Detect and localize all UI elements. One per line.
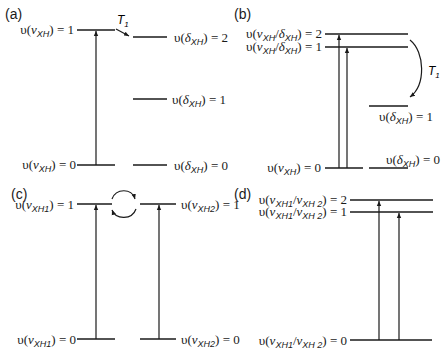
level-label-c-xh1-0: υ(νXH1) = 0: [17, 332, 76, 349]
panel-a: (a) υ(νXH) = 1 υ(νXH) = 0 υ(δXH) = 2 υ(δ…: [5, 6, 228, 175]
level-label-c-xh2-0: υ(νXH2) = 0: [181, 332, 240, 349]
panel-c: (c) υ(νXH1) = 1 υ(νXH2) = 1 υ(νXH1) = 0 …: [11, 186, 240, 349]
level-label-a-stretch-0: υ(νXH) = 0: [22, 157, 76, 174]
level-label-b-stretch-0: υ(νXH) = 0: [267, 160, 321, 177]
level-label-b-bend-1: υ(δXH) = 1: [379, 109, 433, 126]
relaxation-curved-arrow-icon: [410, 40, 422, 97]
level-label-c-xh1-1: υ(νXH1) = 1: [15, 197, 74, 214]
level-label-a-stretch-1: υ(νXH) = 1: [20, 22, 74, 39]
level-label-a-bend-1: υ(δXH) = 1: [172, 92, 226, 109]
panel-d: (d) υ(νXH1/νXH 2) = 2 υ(νXH1/νXH 2) = 1 …: [234, 186, 433, 350]
relaxation-label-b: T1: [428, 64, 440, 80]
exchange-arrow-icon: [112, 209, 136, 217]
level-label-d-mixed-0: υ(νXH1/νXH 2) = 0: [259, 333, 347, 350]
level-label-a-bend-0: υ(δXH) = 0: [174, 158, 228, 175]
level-label-a-bend-2: υ(δXH) = 2: [174, 30, 228, 47]
panel-a-label: (a): [5, 6, 22, 22]
relaxation-arrow-icon: [116, 29, 129, 36]
panel-b-label: (b): [234, 6, 251, 22]
panel-b: (b) υ(νXH/δXH) = 2 υ(νXH/δXH) = 1 υ(νXH)…: [234, 6, 440, 177]
relaxation-label-a: T1: [117, 13, 129, 29]
energy-level-diagram: (a) υ(νXH) = 1 υ(νXH) = 0 υ(δXH) = 2 υ(δ…: [0, 0, 446, 359]
level-label-b-mixed-1: υ(νXH/δXH) = 1: [246, 39, 322, 56]
level-label-c-xh2-1: υ(νXH2) = 1: [181, 197, 240, 214]
level-label-b-bend-0: υ(δXH) = 0: [386, 152, 440, 169]
exchange-arrow-icon: [112, 191, 135, 199]
panel-d-label: (d): [234, 186, 251, 202]
